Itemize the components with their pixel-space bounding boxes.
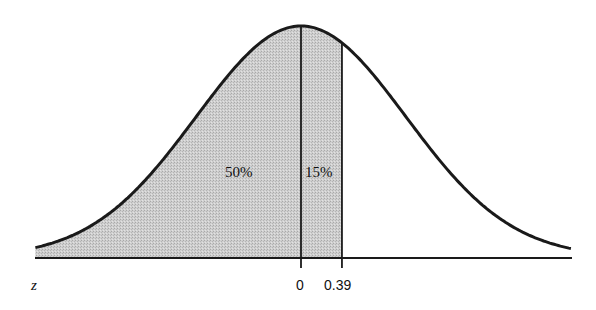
tick-label-0: 0 (296, 277, 304, 293)
axis-variable-label: z (31, 277, 37, 294)
region-label-15: 15% (305, 164, 333, 181)
tick-label-039: 0.39 (324, 277, 351, 293)
shaded-area (35, 26, 342, 258)
normal-curve-chart (0, 0, 596, 310)
region-label-50: 50% (225, 164, 253, 181)
